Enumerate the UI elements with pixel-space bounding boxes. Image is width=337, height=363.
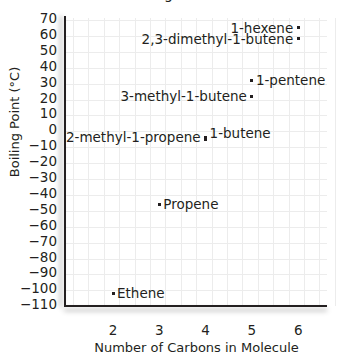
grid-line-vertical: [73, 18, 74, 306]
y-tick-label: −40: [29, 186, 58, 200]
x-axis-label: Number of Carbons in Molecule: [66, 340, 327, 355]
grid-line-horizontal: [66, 179, 327, 180]
y-tick-label: 50: [40, 43, 57, 57]
y-tick-label: 20: [40, 91, 57, 105]
grid-line-vertical: [273, 18, 274, 306]
data-point-marker: [297, 37, 300, 40]
grid-line-horizontal: [66, 227, 327, 228]
grid-line-vertical: [181, 18, 182, 306]
data-point-label: 2-methyl-1-propene: [66, 130, 201, 144]
data-point-marker: [250, 79, 253, 82]
grid-line-vertical: [165, 18, 166, 306]
data-point-marker: [250, 95, 253, 98]
grid-line-vertical: [335, 18, 336, 306]
grid-line-horizontal: [66, 243, 327, 244]
y-tick-label: 30: [40, 75, 57, 89]
grid-line-vertical: [304, 18, 305, 306]
data-point-label: 2,3-dimethyl-1-butene: [142, 32, 294, 46]
y-tick-label: −60: [29, 218, 58, 232]
grid-line-vertical: [227, 18, 228, 306]
x-tick-label: 3: [149, 322, 169, 338]
x-tick-label: 4: [196, 322, 216, 338]
grid-line-horizontal: [66, 115, 327, 116]
data-point-marker: [297, 26, 300, 29]
y-tick-label: 0: [48, 122, 57, 136]
y-tick-label: −80: [29, 250, 58, 264]
grid-line-vertical: [212, 18, 213, 306]
y-tick-label: −50: [29, 202, 58, 216]
grid-line-vertical: [135, 18, 136, 306]
y-axis-label: Boiling Point (°C): [7, 67, 22, 177]
grid-line-vertical: [289, 18, 290, 306]
y-tick-label: −30: [29, 170, 58, 184]
grid-line-vertical: [150, 18, 151, 306]
y-tick-label: 70: [40, 11, 57, 25]
data-point-label: Propene: [163, 197, 218, 211]
grid-line-vertical: [104, 18, 105, 306]
y-tick-label: 60: [40, 27, 57, 41]
data-point-label: 1-pentene: [256, 73, 325, 87]
y-tick-label: −20: [29, 154, 58, 168]
y-tick-label: −70: [29, 234, 58, 248]
grid-line-horizontal: [66, 290, 327, 291]
y-axis-line: [64, 16, 66, 307]
y-tick-label: −100: [20, 281, 57, 295]
grid-line-vertical: [88, 18, 89, 306]
data-point-marker: [112, 292, 115, 295]
plot-area: [66, 18, 327, 306]
data-point-label: Ethene: [117, 286, 165, 300]
grid-line-horizontal: [66, 259, 327, 260]
data-point-label: 3-methyl-1-butene: [120, 89, 246, 103]
grid-line-vertical: [258, 18, 259, 306]
y-tick-label: −110: [20, 297, 57, 311]
grid-line-vertical: [196, 18, 197, 306]
grid-line-horizontal: [66, 274, 327, 275]
x-tick-label: 6: [288, 322, 308, 338]
y-tick-label: 40: [40, 59, 57, 73]
grid-line-horizontal: [66, 147, 327, 148]
y-tick-label: −90: [29, 265, 58, 279]
grid-line-horizontal: [66, 163, 327, 164]
grid-line-vertical: [119, 18, 120, 306]
x-axis-line: [64, 305, 327, 307]
grid-line-vertical: [319, 18, 320, 306]
x-tick-label: 2: [103, 322, 123, 338]
x-tick-label: 5: [242, 322, 262, 338]
y-tick-label: −10: [29, 138, 58, 152]
grid-line-vertical: [242, 18, 243, 306]
data-point-label: 1-butene: [210, 126, 271, 140]
data-point-marker: [158, 203, 161, 206]
y-tick-label: 10: [40, 106, 57, 120]
grid-line-horizontal: [66, 52, 327, 53]
grid-line-horizontal: [66, 68, 327, 69]
data-point-marker: [204, 138, 207, 141]
chart-title-cropped: g: [0, 0, 337, 2]
